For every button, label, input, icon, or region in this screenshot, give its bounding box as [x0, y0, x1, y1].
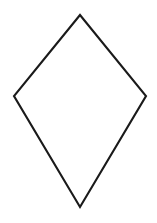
drawing-canvas	[0, 0, 157, 223]
kite-shape-svg	[0, 0, 157, 223]
